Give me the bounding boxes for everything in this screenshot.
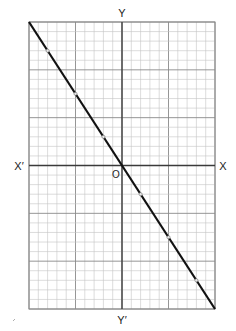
line-chart: Y Y′ X X′ O bbox=[0, 0, 236, 331]
stray-mark bbox=[13, 319, 15, 321]
x-axis-negative-label: X′ bbox=[14, 160, 23, 172]
data-point-marker bbox=[139, 193, 142, 196]
data-point-marker bbox=[102, 135, 105, 138]
data-point-marker bbox=[167, 236, 170, 239]
data-point-marker bbox=[46, 49, 49, 52]
y-axis-label: Y bbox=[118, 7, 126, 19]
x-axis-label: X bbox=[219, 160, 227, 172]
y-axis-negative-label: Y′ bbox=[117, 314, 126, 326]
data-point-marker bbox=[195, 279, 198, 282]
origin-label: O bbox=[112, 169, 120, 180]
data-point-marker bbox=[74, 92, 77, 95]
